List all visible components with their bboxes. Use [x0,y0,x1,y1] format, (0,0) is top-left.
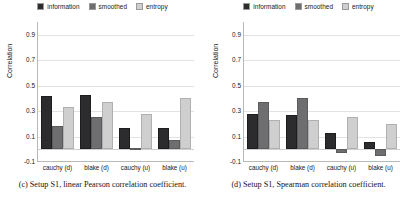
y-tick-label: 0.9 [232,32,241,38]
legend-item-information[interactable]: information [37,3,79,10]
y-tick-label: 0.7 [232,57,241,63]
x-tick-label: cauchy (u) [121,165,150,171]
bar-smoothed[interactable] [130,148,141,150]
bar-entropy[interactable] [63,107,74,149]
legend-swatch-icon [136,3,143,10]
bar-smoothed[interactable] [297,98,308,149]
legend-swatch-icon [37,3,44,10]
y-axis-label: Correlation [6,44,13,78]
y-tick-label: -0.1 [230,159,241,165]
x-tick-label: cauchy (d) [43,165,72,171]
y-axis-label: Correlation [212,44,219,78]
x-tick-label: blake (d) [290,165,315,171]
bar-set [155,22,194,162]
y-tick-label: 0.1 [26,133,35,139]
bar-set [361,22,400,162]
bar-information[interactable] [119,128,130,150]
legend-swatch-icon [89,3,96,10]
plot-area: 0.90.70.50.30.1-0.1cauchy (d)blake (d)ca… [37,22,194,162]
bar-information[interactable] [158,128,169,150]
bar-information[interactable] [80,95,91,150]
chart-legend: informationsmoothedentropy [0,3,205,10]
plot-area: 0.90.70.50.30.1-0.1cauchy (d)blake (d)ca… [243,22,400,162]
y-tick-label: 0.1 [232,133,241,139]
x-tick-label: blake (u) [368,165,393,171]
bar-group: cauchy (u) [116,22,155,162]
bar-group: cauchy (u) [322,22,361,162]
bar-group: cauchy (d) [38,22,77,162]
bar-set [38,22,77,162]
bar-smoothed[interactable] [52,126,63,149]
legend-label: entropy [146,3,168,10]
y-tick-label: 0.3 [232,108,241,114]
x-tick-label: blake (d) [84,165,109,171]
panel-caption: (c) Setup S1, linear Pearson correlation… [0,180,205,189]
x-tick-label: cauchy (u) [327,165,356,171]
legend-label: information [47,3,79,10]
bar-entropy[interactable] [180,98,191,149]
legend-item-smoothed[interactable]: smoothed [295,3,333,10]
bar-smoothed[interactable] [375,149,386,155]
bar-set [244,22,283,162]
bar-information[interactable] [325,133,336,150]
bar-smoothed[interactable] [169,140,180,149]
bar-entropy[interactable] [308,120,319,149]
bar-smoothed[interactable] [91,117,102,149]
bar-information[interactable] [41,96,52,149]
bar-set [322,22,361,162]
bar-group: cauchy (d) [244,22,283,162]
bar-group: blake (u) [155,22,194,162]
bar-entropy[interactable] [141,114,152,150]
legend-item-entropy[interactable]: entropy [342,3,374,10]
bar-set [116,22,155,162]
bar-smoothed[interactable] [336,149,347,153]
x-tick-label: cauchy (d) [249,165,278,171]
bar-entropy[interactable] [347,117,358,149]
legend-swatch-icon [243,3,250,10]
figure-pair: informationsmoothedentropyCorrelation0.9… [0,0,411,197]
bar-groups: cauchy (d)blake (d)cauchy (u)blake (u) [244,22,400,162]
x-tick-label: blake (u) [162,165,187,171]
bar-set [283,22,322,162]
legend-item-entropy[interactable]: entropy [136,3,168,10]
y-tick-label: 0.3 [26,108,35,114]
legend-item-information[interactable]: information [243,3,285,10]
bar-group: blake (d) [283,22,322,162]
bar-entropy[interactable] [102,102,113,149]
bar-entropy[interactable] [269,120,280,149]
legend-swatch-icon [342,3,349,10]
panel-caption: (d) Setup S1, Spearman correlation coeff… [206,180,411,189]
y-tick-label: 0.9 [26,32,35,38]
legend-label: entropy [352,3,374,10]
bar-set [77,22,116,162]
bar-entropy[interactable] [386,124,397,149]
bar-group: blake (d) [77,22,116,162]
bar-groups: cauchy (d)blake (d)cauchy (u)blake (u) [38,22,194,162]
y-tick-label: 0.5 [232,82,241,88]
legend-label: smoothed [305,3,333,10]
bar-smoothed[interactable] [258,102,269,149]
y-tick-label: 0.5 [26,82,35,88]
legend-label: information [253,3,285,10]
bar-group: blake (u) [361,22,400,162]
legend-item-smoothed[interactable]: smoothed [89,3,127,10]
bar-information[interactable] [247,114,258,150]
bar-information[interactable] [286,115,297,149]
legend-label: smoothed [99,3,127,10]
y-tick-label: -0.1 [24,159,35,165]
bar-information[interactable] [364,142,375,150]
chart-panel-d: informationsmoothedentropyCorrelation0.9… [206,0,411,197]
chart-panel-c: informationsmoothedentropyCorrelation0.9… [0,0,205,197]
chart-legend: informationsmoothedentropy [206,3,411,10]
y-tick-label: 0.7 [26,57,35,63]
legend-swatch-icon [295,3,302,10]
